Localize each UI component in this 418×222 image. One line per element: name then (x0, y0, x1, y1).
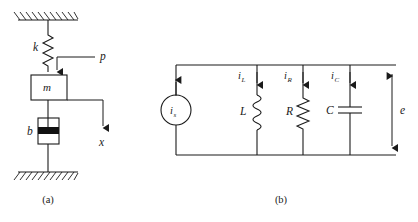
mass-label: m (43, 81, 51, 93)
inductor-current-label: iL (238, 70, 245, 84)
spring-label: k (33, 41, 39, 53)
spring-icon (43, 32, 53, 72)
ceiling-ground-icon (14, 12, 78, 20)
damper-icon (38, 118, 59, 144)
voltage-arrow-icon (350, 65, 396, 155)
voltage-label: e (400, 104, 405, 116)
resistor-label: R (285, 105, 293, 117)
mechanical-panel: k p m x b (14, 12, 106, 206)
displacement-arrow-icon (67, 100, 103, 126)
force-label: p (99, 50, 106, 63)
caption-a: (a) (42, 194, 54, 206)
figure-container: k p m x b (0, 0, 418, 222)
caption-b: (b) (275, 194, 288, 206)
resistor-current-label: iR (284, 70, 292, 84)
electrical-panel: is L iL R iR (161, 65, 405, 206)
figure-svg: k p m x b (0, 0, 418, 222)
damper-label: b (27, 125, 33, 137)
displacement-label: x (98, 136, 105, 148)
floor-ground-icon (14, 172, 78, 180)
inductor-label: L (239, 105, 246, 117)
capacitor-label: C (326, 104, 334, 116)
capacitor-current-label: iC (331, 70, 339, 84)
force-arrow-icon (57, 57, 95, 70)
